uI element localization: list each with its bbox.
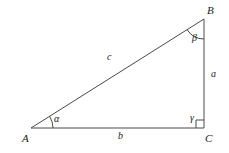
side-label-b: b: [118, 131, 123, 141]
right-angle-marker-gamma: [196, 120, 204, 128]
vertex-label-c: C: [205, 133, 212, 144]
angle-label-beta: β: [192, 33, 197, 43]
triangle-diagram: A B C c a b α β γ: [0, 0, 229, 153]
side-label-a: a: [211, 69, 216, 79]
vertex-label-b: B: [207, 5, 214, 16]
side-line-c: [31, 19, 204, 128]
side-label-c: c: [107, 52, 111, 62]
angle-arc-alpha: [50, 116, 53, 128]
angle-label-gamma: γ: [190, 113, 194, 123]
triangle-svg: [0, 0, 229, 153]
angle-label-alpha: α: [54, 114, 59, 124]
vertex-label-a: A: [22, 133, 29, 144]
